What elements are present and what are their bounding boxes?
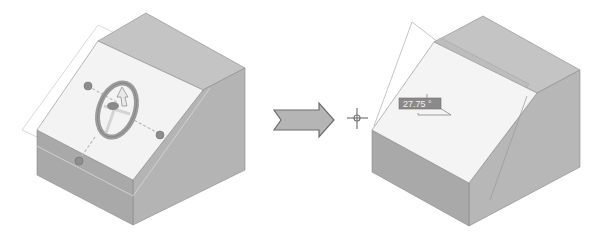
figure-stage: 27.75 ° xyxy=(0,0,605,240)
after-model: 27.75 ° xyxy=(372,16,580,226)
before-model xyxy=(22,13,245,225)
handle-knob-right[interactable] xyxy=(156,131,164,139)
wheel-hub xyxy=(107,102,119,110)
crosshair-icon xyxy=(347,108,368,129)
handle-knob-bottom[interactable] xyxy=(75,157,83,165)
figure-canvas: 27.75 ° xyxy=(0,0,605,240)
right-arrow-icon xyxy=(274,103,334,137)
handle-knob-top-left[interactable] xyxy=(84,82,92,90)
angle-value: 27.75 ° xyxy=(403,99,432,109)
